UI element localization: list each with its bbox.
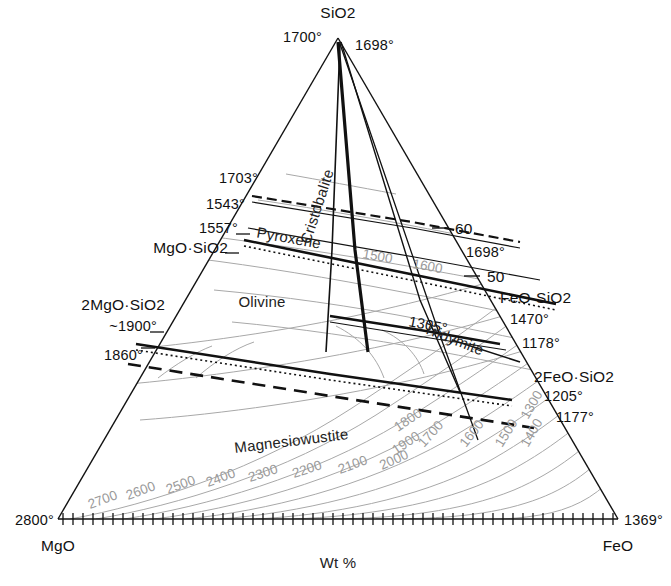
- left-temp-1703: 1703°: [219, 170, 258, 186]
- right-temp-1178: 1178°: [522, 335, 560, 351]
- corner-temp-2800: 2800°: [15, 512, 54, 528]
- apex-temp-left: 1700°: [283, 29, 322, 45]
- axis-label-wt-percent: Wt %: [320, 554, 357, 571]
- left-temp-1860: 1860°: [104, 347, 143, 363]
- corner-temp-1369: 1369°: [624, 512, 663, 528]
- left-compound-forsterite: 2MgO·SiO2: [81, 296, 165, 313]
- right-compound-fayalite: 2FeO·SiO2: [534, 368, 614, 385]
- right-temp-1205: 1205°: [544, 388, 583, 404]
- right-temp-1698: 1698°: [466, 244, 505, 260]
- apex-label-sio2: SiO2: [320, 4, 355, 21]
- right-temp-1177: 1177°: [556, 409, 594, 425]
- right-temp-1470: 1470°: [510, 311, 549, 327]
- corner-label-feo: FeO: [603, 537, 634, 554]
- right-compound-ferrosilite: FeO·SiO2: [500, 289, 571, 306]
- right-tick-60: 60: [455, 220, 473, 237]
- ternary-phase-diagram: SiO2 1700° 1698° 1703° 1543° 1557° MgO·S…: [0, 0, 671, 586]
- left-temp-1543: 1543°: [206, 196, 245, 212]
- phase-diagram-figure: SiO2 1700° 1698° 1703° 1543° 1557° MgO·S…: [0, 0, 671, 586]
- corner-label-mgo: MgO: [41, 537, 75, 554]
- apex-temp-right: 1698°: [355, 37, 394, 53]
- left-compound-enstatite: MgO·SiO2: [153, 239, 228, 256]
- left-temp-1557: 1557°: [199, 220, 238, 236]
- right-tick-50: 50: [487, 268, 505, 285]
- left-temp-1900: ~1900°: [109, 318, 157, 334]
- field-label-olivine: Olivine: [238, 293, 285, 310]
